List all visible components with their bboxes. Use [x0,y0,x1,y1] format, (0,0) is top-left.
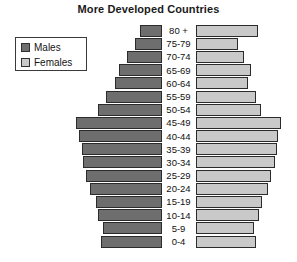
pyramid-row: 75-79 [0,37,297,50]
pyramid-row: 5-9 [0,222,297,235]
age-group-label: 45-49 [163,116,194,129]
bar-male [101,236,162,248]
age-group-label: 15-19 [163,195,194,208]
population-pyramid-chart: More Developed Countries Males Females 8… [0,0,297,262]
bar-female [196,156,275,168]
bar-female [196,183,268,195]
age-group-label: 70-74 [163,50,194,63]
bar-female [196,143,277,155]
age-group-label: 40-44 [163,130,194,143]
pyramid-row: 30-34 [0,156,297,169]
age-group-label: 35-39 [163,143,194,156]
age-group-label: 0-4 [163,235,194,248]
bar-female [196,38,238,50]
age-group-label: 60-64 [163,77,194,90]
age-group-label: 80 + [163,24,194,37]
age-group-label: 25-29 [163,169,194,182]
bar-male [76,117,162,129]
bar-female [196,236,256,248]
bar-male [82,143,162,155]
bar-female [196,64,251,76]
pyramid-rows: 80 +75-7970-7465-6960-6455-5950-5445-494… [0,24,297,248]
bar-female [196,222,254,234]
bar-male [83,156,162,168]
pyramid-row: 15-19 [0,195,297,208]
bar-male [119,64,162,76]
pyramid-row: 40-44 [0,130,297,143]
age-group-label: 55-59 [163,90,194,103]
bar-female [196,91,256,103]
bar-male [135,38,162,50]
pyramid-row: 10-14 [0,209,297,222]
pyramid-row: 0-4 [0,235,297,248]
pyramid-row: 50-54 [0,103,297,116]
age-group-label: 65-69 [163,64,194,77]
pyramid-row: 35-39 [0,143,297,156]
bar-female [196,130,278,142]
bar-male [98,104,162,116]
pyramid-row: 80 + [0,24,297,37]
pyramid-row: 25-29 [0,169,297,182]
bar-female [196,104,261,116]
bar-male [127,51,162,63]
bar-female [196,117,281,129]
bar-male [140,25,162,37]
age-group-label: 5-9 [163,222,194,235]
bar-female [196,77,248,89]
bar-male [98,209,162,221]
bar-female [196,51,244,63]
pyramid-row: 70-74 [0,50,297,63]
pyramid-row: 55-59 [0,90,297,103]
age-group-label: 50-54 [163,103,194,116]
bar-male [106,91,162,103]
bar-male [79,130,162,142]
bar-female [196,209,259,221]
age-group-label: 20-24 [163,182,194,195]
bar-female [196,170,271,182]
pyramid-row: 45-49 [0,116,297,129]
age-group-label: 75-79 [163,37,194,50]
bar-male [96,196,162,208]
age-group-label: 30-34 [163,156,194,169]
bar-male [115,77,162,89]
bar-male [86,170,162,182]
bar-female [196,196,262,208]
chart-title: More Developed Countries [0,3,297,15]
bar-male [90,183,162,195]
age-group-label: 10-14 [163,209,194,222]
pyramid-row: 20-24 [0,182,297,195]
pyramid-row: 60-64 [0,77,297,90]
bar-female [196,25,258,37]
bar-male [103,222,162,234]
pyramid-row: 65-69 [0,64,297,77]
